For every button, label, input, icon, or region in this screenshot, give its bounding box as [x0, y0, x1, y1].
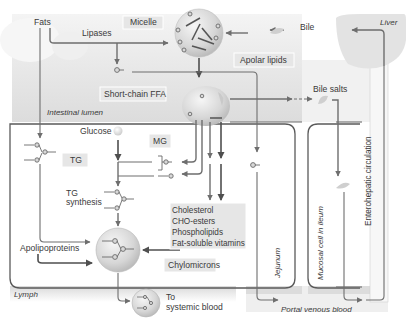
- label-bile: Bile: [300, 22, 315, 32]
- line-ileum-to-portal: [344, 192, 362, 300]
- label-phospholipids: Phospholipids: [172, 228, 223, 237]
- label-glucose: Glucose: [80, 126, 112, 136]
- label-chylomicrons: Chylomicrons: [168, 260, 220, 270]
- fatty-acid-molecule-icon: [251, 163, 260, 168]
- label-cho-esters: CHO-esters: [172, 217, 215, 226]
- label-micelle: Micelle: [130, 17, 157, 27]
- label-fat-soluble-vitamins: Fat-soluble vitamins: [172, 239, 245, 248]
- label-intestinal-lumen: Intestinal lumen: [47, 108, 104, 117]
- arrow-micelle-to-mg: [182, 120, 196, 162]
- label-mucosal-cell-ileum: Mucosal cell in ileum: [316, 206, 325, 280]
- label-tg: TG: [70, 155, 82, 165]
- label-lipases: Lipases: [82, 28, 112, 38]
- label-tg-synthesis-2: synthesis: [66, 197, 102, 207]
- arrow-apolipoproteins-to-chylomicron: [38, 254, 92, 263]
- label-jejunum: Jejunum: [273, 247, 282, 279]
- bile-droplet-icon: [336, 183, 350, 189]
- triglyceride-molecule-icon: [24, 143, 56, 162]
- label-mg: MG: [153, 136, 167, 146]
- label-to-systemic-1: To: [166, 292, 175, 302]
- label-apolipoproteins: Apolipoproteins: [20, 243, 79, 253]
- label-apolar-lipids: Apolar lipids: [240, 55, 287, 65]
- label-cholesterol: Cholesterol: [172, 206, 214, 215]
- monoglyceride-molecule-icon: [158, 156, 172, 170]
- label-lymph: Lymph: [14, 290, 38, 299]
- chylomicron-sphere-icon: [96, 228, 140, 272]
- label-portal-venous-blood: Portal venous blood: [281, 305, 352, 314]
- micelle-sphere-icon: [175, 9, 223, 57]
- label-to-systemic-2: systemic blood: [166, 302, 223, 312]
- mixed-micelle-icon: [182, 86, 230, 126]
- glucose-sphere-icon: [114, 127, 123, 136]
- arrow-micelle-to-ffa: [182, 120, 202, 174]
- fat-absorption-diagram: Fats Lipases Micelle Apolar lipids Bile …: [0, 0, 408, 326]
- label-short-chain-ffa: Short-chain FFA: [104, 89, 166, 99]
- line-ffa-down-to-portal: [257, 172, 278, 300]
- triglyceride-molecule-icon: [104, 190, 134, 210]
- label-enterohepatic-circulation: Enterohepatic circulation: [364, 136, 373, 226]
- label-bile-salts: Bile salts: [313, 84, 347, 94]
- label-liver: Liver: [380, 18, 398, 27]
- label-fats: Fats: [34, 17, 51, 27]
- fatty-acid-molecule-icon: [158, 174, 173, 178]
- chylomicron-sphere-icon: [132, 289, 160, 317]
